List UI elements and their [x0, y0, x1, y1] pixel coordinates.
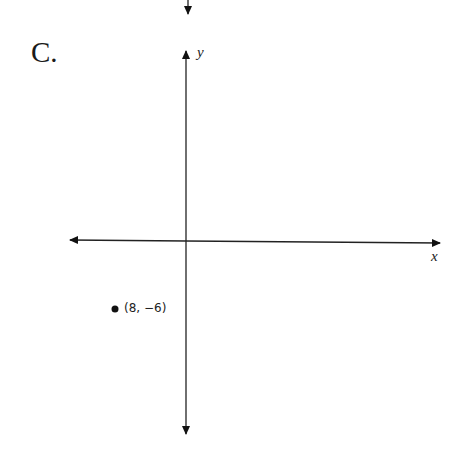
plotted-point	[112, 306, 119, 313]
coordinate-plane	[0, 0, 466, 450]
point-label: (8, −6)	[124, 301, 166, 315]
option-label: C.	[31, 36, 58, 69]
x-axis-right	[186, 241, 440, 243]
y-axis-label: y	[197, 44, 204, 61]
x-axis-left	[70, 240, 186, 241]
x-axis-label: x	[431, 248, 438, 265]
